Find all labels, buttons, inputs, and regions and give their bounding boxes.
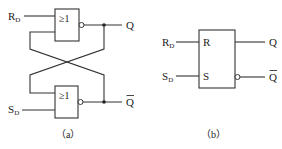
diagram-a: RD ≥1 Q ≥1 Q SD （a） <box>8 9 134 140</box>
inverter-bubble-upper <box>79 23 84 28</box>
output-label-qbar: Q <box>126 96 134 108</box>
input-label-sd-b: SD <box>162 70 173 84</box>
gate-symbol-upper: ≥1 <box>59 13 70 24</box>
output-label-q-b: Q <box>269 36 277 48</box>
pin-label-s: S <box>203 70 209 82</box>
output-label-qbar-b: Q <box>269 71 277 83</box>
inverter-bubble-b <box>235 75 240 80</box>
junction-dot-qbar <box>102 100 106 104</box>
inverter-bubble-lower <box>78 100 83 105</box>
pin-label-r: R <box>203 36 211 48</box>
input-label-sd: SD <box>8 103 19 117</box>
input-label-rd: RD <box>8 10 20 24</box>
output-label-q: Q <box>126 19 134 31</box>
sr-latch-figure: RD ≥1 Q ≥1 Q SD （a） RD SD R S <box>0 0 282 149</box>
caption-a: （a） <box>56 129 80 140</box>
input-label-rd-b: RD <box>162 36 174 50</box>
gate-symbol-lower: ≥1 <box>59 90 70 101</box>
diagram-b: RD SD R S Q Q （b） <box>162 30 277 140</box>
caption-b: （b） <box>201 129 226 140</box>
